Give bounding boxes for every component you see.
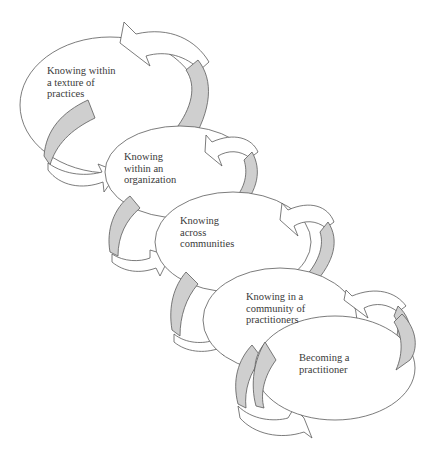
stage-label-texture: Knowing within a texture of practices bbox=[47, 65, 116, 100]
stage-label-becoming: Becoming a practitioner bbox=[299, 352, 349, 375]
stage-label-organization: Knowing within an organization bbox=[124, 151, 176, 186]
twist-organization-left bbox=[109, 196, 140, 256]
stage-label-across: Knowing across communities bbox=[180, 215, 234, 250]
twist-across-left bbox=[171, 272, 198, 336]
stage-label-community: Knowing in a community of practitioners bbox=[246, 291, 305, 326]
